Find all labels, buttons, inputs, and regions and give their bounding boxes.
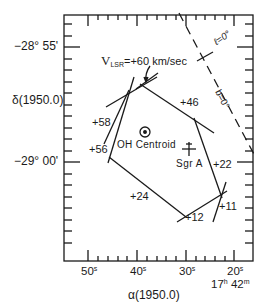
oh-centroid-symbol — [140, 127, 150, 137]
sgr-a-cross-icon — [182, 142, 196, 156]
velocity-label-22: +22 — [213, 159, 232, 170]
x-axis-title: α(1950.0) — [128, 289, 180, 301]
velocity-label-46: +46 — [180, 97, 199, 108]
y-tick-label-2855: −28° 55' — [14, 40, 58, 52]
x-tick-label-30s: 30s — [179, 265, 195, 278]
plot-frame — [64, 15, 253, 261]
top-axis-ticks — [88, 15, 234, 26]
x-hour-label: 17h 42m — [211, 278, 250, 291]
right-axis-ticks — [237, 24, 253, 243]
oh-centroid-label: OH Centroid — [117, 140, 176, 150]
velocity-label-56: +56 — [89, 144, 108, 155]
velocity-label-12: +12 — [185, 212, 204, 223]
x-tick-label-20s: 20s — [227, 265, 243, 278]
x-tick-label-40s: 40s — [130, 265, 146, 278]
bottom-axis-ticks — [88, 250, 234, 261]
l-zero-cross-mark — [197, 52, 213, 61]
vlsr-annotation: VLSR=+60 km/sec — [101, 54, 187, 68]
velocity-label-11: +11 — [219, 201, 237, 212]
y-axis-title: δ(1950.0) — [12, 94, 63, 106]
left-axis-ticks — [64, 24, 80, 243]
velocity-label-24: +24 — [130, 191, 149, 202]
velocity-label-58: +58 — [92, 117, 111, 128]
sgr-a-label: Sgr A — [176, 159, 203, 169]
y-tick-label-2900: −29° 00' — [14, 155, 58, 167]
x-tick-label-50s: 50s — [81, 265, 97, 278]
